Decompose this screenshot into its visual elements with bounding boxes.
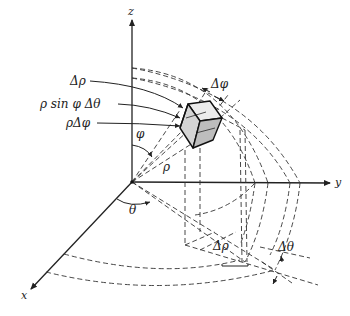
rho-delta-phi-label: ρΔφ	[66, 117, 90, 129]
z-axis-label: z	[128, 6, 134, 17]
volume-element-box	[180, 101, 222, 148]
spherical-volume-element-diagram: z y x Δρ ρ sin φ Δθ ρΔφ φ ρ θ Δφ Δρ Δθ	[0, 0, 350, 316]
y-axis-label: y	[335, 177, 341, 188]
x-axis	[31, 182, 132, 289]
rho-label: ρ	[163, 161, 170, 173]
origin-point	[130, 180, 134, 184]
phi-label: φ	[136, 128, 144, 140]
delta-rho-top-label: Δρ	[70, 75, 86, 87]
delta-phi-label: Δφ	[211, 78, 228, 90]
diagram-canvas	[0, 0, 350, 316]
delta-rho-bottom-label: Δρ	[213, 240, 229, 252]
rho-sin-phi-delta-theta-label: ρ sin φ Δθ	[40, 98, 101, 110]
x-axis-label: x	[21, 290, 27, 301]
theta-label: θ	[129, 204, 136, 216]
y-axis	[132, 182, 330, 183]
delta-theta-label: Δθ	[278, 241, 294, 253]
